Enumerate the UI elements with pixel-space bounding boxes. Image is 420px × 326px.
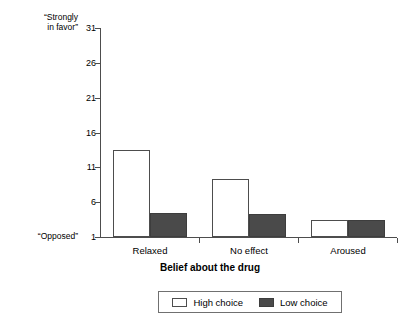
x-axis-title: Belief about the drug bbox=[0, 262, 420, 273]
legend-entry-high-choice: High choice bbox=[172, 297, 243, 308]
y-axis-tick-labels: 161116212631 bbox=[68, 0, 96, 326]
y-axis-tick-mark bbox=[95, 167, 101, 168]
bar-relaxed-high-choice bbox=[113, 150, 150, 237]
bar-no-effect-high-choice bbox=[212, 179, 249, 237]
legend-swatch-high-choice bbox=[172, 298, 187, 307]
legend: High choice Low choice bbox=[158, 291, 342, 313]
bar-no-effect-low-choice bbox=[249, 214, 286, 237]
bar-relaxed-low-choice bbox=[150, 213, 187, 237]
y-axis-tick-mark bbox=[95, 133, 101, 134]
x-axis-tick-mark bbox=[298, 238, 299, 243]
legend-swatch-low-choice bbox=[259, 298, 274, 307]
y-axis-tick-label: 31 bbox=[70, 24, 96, 33]
y-axis-tick-label: 26 bbox=[70, 58, 96, 67]
x-axis-tick-mark bbox=[199, 238, 200, 243]
y-axis-tick-label: 11 bbox=[70, 163, 96, 172]
y-axis-tick-mark bbox=[95, 63, 101, 64]
x-axis-line bbox=[100, 237, 397, 238]
legend-entry-low-choice: Low choice bbox=[259, 297, 328, 308]
bar-aroused-low-choice bbox=[348, 220, 385, 237]
y-axis-tick-mark bbox=[95, 28, 101, 29]
bar-chart: “Strongly in favor” “Opposed” 1611162126… bbox=[0, 0, 420, 326]
y-axis-tick-mark bbox=[95, 202, 101, 203]
y-axis-tick-mark bbox=[95, 237, 101, 238]
y-axis-tick-label: 1 bbox=[70, 233, 96, 242]
legend-label-low-choice: Low choice bbox=[280, 297, 328, 308]
y-axis-tick-label: 16 bbox=[70, 128, 96, 137]
legend-label-high-choice: High choice bbox=[193, 297, 243, 308]
x-axis-tick-mark bbox=[397, 238, 398, 243]
x-axis-category-label: No effect bbox=[230, 245, 268, 256]
bar-aroused-high-choice bbox=[311, 220, 348, 237]
y-axis-tick-label: 21 bbox=[70, 93, 96, 102]
x-axis-category-label: Aroused bbox=[330, 245, 365, 256]
x-axis-category-label: Relaxed bbox=[133, 245, 168, 256]
y-axis-tick-mark bbox=[95, 98, 101, 99]
y-axis-tick-label: 6 bbox=[70, 198, 96, 207]
